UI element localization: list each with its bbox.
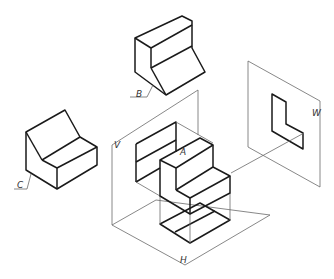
w-plane: [231, 61, 320, 187]
label-b: B: [136, 89, 142, 99]
object-b: [130, 16, 205, 97]
label-v: V: [114, 140, 121, 150]
object-a: [160, 138, 230, 214]
object-c: [14, 110, 97, 189]
v-plane: [112, 90, 198, 225]
projection-diagram: A B C V H W: [0, 0, 334, 279]
h-projection: [160, 193, 230, 243]
label-h: H: [180, 255, 187, 265]
v-projection: [136, 122, 213, 196]
label-c: C: [17, 180, 24, 190]
label-a: A: [179, 147, 186, 157]
label-w: W: [312, 108, 322, 118]
h-plane: [112, 200, 270, 265]
